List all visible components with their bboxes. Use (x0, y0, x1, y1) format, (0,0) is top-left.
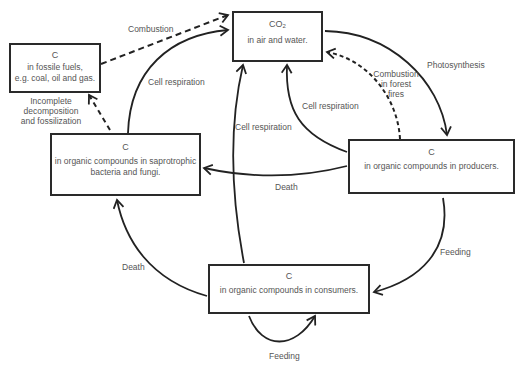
node-fossil-title: C (11, 50, 99, 61)
node-co2: CO2 in air and water. (232, 11, 323, 62)
label-photosynthesis: Photosynthesis (427, 60, 485, 70)
arrow-death-consumers (117, 200, 207, 296)
node-consumers: C in organic compounds in consumers. (208, 264, 370, 314)
label-forest-fire: Combustion in forest fires (371, 69, 421, 99)
arrow-incomplete-decomposition (89, 95, 110, 130)
node-co2-title: CO2 (234, 19, 321, 32)
node-saprotrophs-desc-1: in organic compounds in saprotrophic (52, 156, 199, 167)
label-forest-fire-2: in forest (371, 79, 421, 89)
arrow-cell-resp-consumers (233, 65, 244, 263)
label-death-consumers: Death (122, 262, 145, 272)
label-death-producers: Death (275, 182, 298, 192)
node-fossil-desc-1: in fossile fuels, (11, 62, 99, 73)
label-incomplete-1: Incomplete (20, 96, 82, 106)
label-forest-fire-1: Combustion (371, 69, 421, 79)
node-consumers-desc: in organic compounds in consumers. (210, 285, 368, 296)
node-producers-desc: in organic compounds in producers. (350, 161, 513, 172)
node-consumers-title: C (210, 271, 368, 282)
label-cell-resp-consumers: Cell respiration (235, 122, 292, 132)
label-combustion: Combustion (128, 24, 173, 34)
node-saprotrophs: C in organic compounds in saprotrophic b… (50, 133, 201, 196)
node-producers-title: C (350, 147, 513, 158)
label-feeding-consumers: Feeding (269, 351, 300, 361)
node-producers: C in organic compounds in producers. (348, 139, 515, 194)
node-fossil-fuels: C in fossile fuels, e.g. coal, oil and g… (9, 43, 101, 93)
node-co2-desc: in air and water. (234, 35, 321, 46)
node-fossil-desc-2: e.g. coal, oil and gas. (11, 73, 99, 84)
label-incomplete-2: decomposition (20, 106, 82, 116)
label-incomplete-decomposition: Incomplete decomposition and fossilizati… (20, 96, 82, 126)
label-cell-resp-saprotrophs: Cell respiration (148, 77, 205, 87)
arrow-feeding-consumers (249, 316, 315, 342)
label-incomplete-3: and fossilization (20, 116, 82, 126)
arrow-death-producers (204, 166, 347, 175)
arrow-combustion (101, 15, 228, 64)
arrow-feeding-producers (374, 198, 445, 292)
label-feeding-producers: Feeding (440, 247, 471, 257)
label-forest-fire-3: fires (371, 89, 421, 99)
node-saprotrophs-title: C (52, 142, 199, 153)
label-cell-resp-producers: Cell respiration (302, 101, 359, 111)
node-saprotrophs-desc-2: bacteria and fungi. (52, 167, 199, 178)
